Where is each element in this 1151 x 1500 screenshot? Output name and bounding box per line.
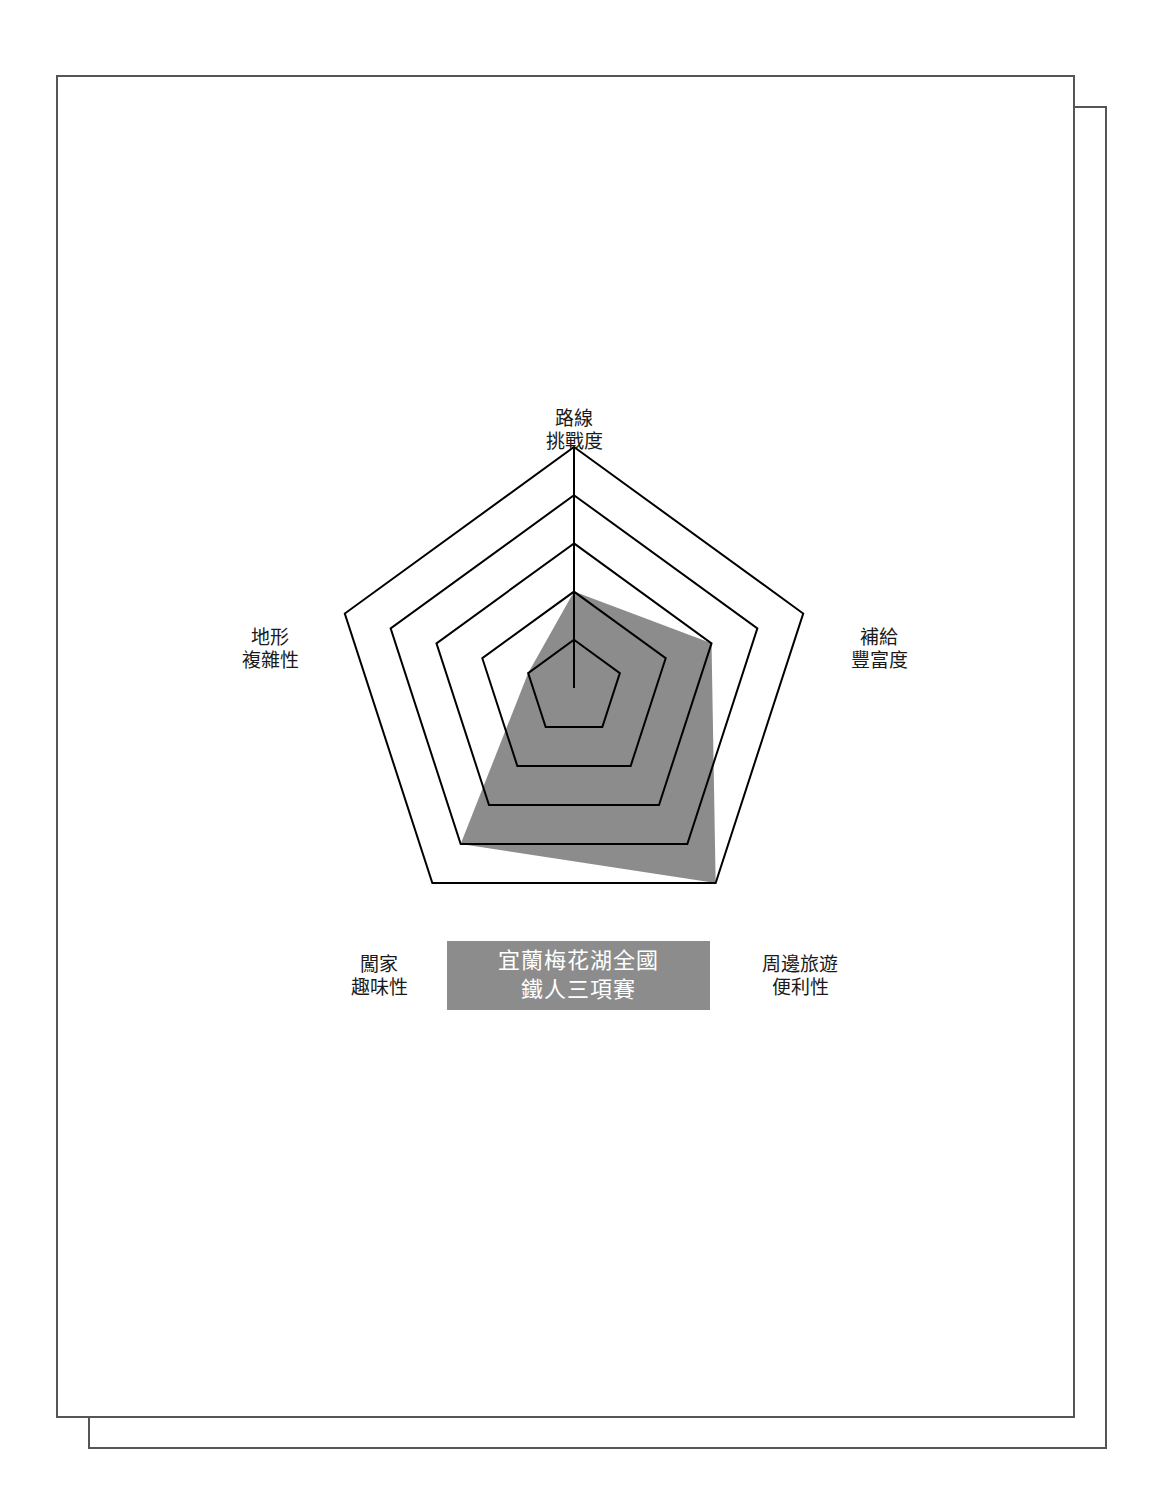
radar-chart — [0, 0, 1151, 1500]
data-polygon — [461, 592, 716, 883]
chart-title-box: 宜蘭梅花湖全國 鐵人三項賽 — [447, 941, 710, 1010]
axis-label-route-challenge: 路線挑戰度 — [524, 384, 624, 476]
axis-label-supply-richness: 補給豐富度 — [834, 603, 924, 695]
chart-title-line-2: 鐵人三項賽 — [447, 975, 710, 1004]
axis-label-fun: 闖家趣味性 — [334, 930, 424, 1022]
axis-label-terrain-complexity: 地形複雜性 — [220, 603, 320, 695]
axis-label-tourism-convenience: 周邊旅遊便利性 — [740, 930, 860, 1022]
chart-title-line-1: 宜蘭梅花湖全國 — [447, 946, 710, 975]
